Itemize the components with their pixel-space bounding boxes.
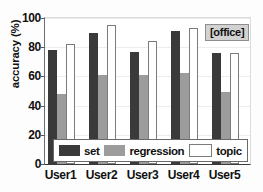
y-axis-label: accuracy (%) <box>9 0 21 114</box>
x-tick-label-user4: User4 <box>168 168 199 182</box>
y-tick-label: 20 <box>28 128 41 142</box>
x-tick-label-user3: User3 <box>127 168 158 182</box>
y-tick-label: 100 <box>22 11 41 25</box>
y-tick-mark <box>41 76 45 77</box>
y-tick-label: 60 <box>28 69 41 83</box>
bar-chart-figure: accuracy (%) 020406080100 [office] set r… <box>0 0 263 192</box>
y-tick-label: 0 <box>35 157 41 171</box>
legend-entry-regression: regression <box>104 145 184 157</box>
legend-swatch-topic <box>189 144 212 157</box>
legend-swatch-regression <box>104 145 125 156</box>
legend-entry-topic: topic <box>189 144 241 157</box>
y-tick-mark <box>41 106 45 107</box>
office-annotation: [office] <box>205 24 249 41</box>
legend-label-set: set <box>84 145 99 157</box>
legend-entry-set: set <box>59 145 99 157</box>
chart-legend: set regression topic <box>53 139 248 162</box>
x-tick-label-user2: User2 <box>86 168 117 182</box>
legend-label-regression: regression <box>129 145 184 157</box>
x-tick-label-user1: User1 <box>45 168 76 182</box>
y-tick-mark <box>41 47 45 48</box>
y-tick-mark <box>41 135 45 136</box>
y-tick-label: 40 <box>28 99 41 113</box>
x-tick-label-user5: User5 <box>209 168 240 182</box>
legend-swatch-set <box>59 145 80 156</box>
y-tick-label: 80 <box>28 40 41 54</box>
y-tick-mark <box>41 164 45 165</box>
legend-label-topic: topic <box>216 145 241 157</box>
y-tick-mark <box>41 18 45 19</box>
